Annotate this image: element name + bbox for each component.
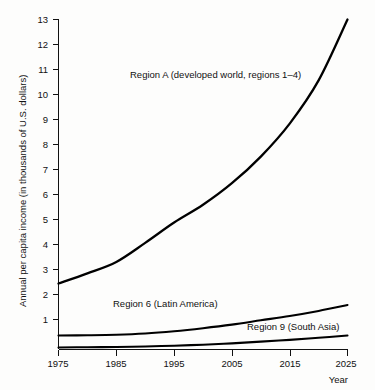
y-tick-label-7: 7 [43, 164, 48, 175]
line-chart: 13 12 11 10 9 8 7 6 5 4 3 2 1 1975 1985 … [0, 0, 375, 390]
x-tick-label-2015: 2015 [279, 358, 300, 369]
y-tick-label-11: 11 [38, 64, 48, 75]
series-label-region-9: Region 9 (South Asia) [247, 321, 339, 332]
y-axis-ticks [53, 20, 59, 320]
series-label-region-a: Region A (developed world, regions 1–4) [130, 69, 301, 80]
y-tick-label-2: 2 [43, 289, 48, 300]
y-tick-label-1: 1 [43, 314, 48, 325]
x-axis-ticks [59, 350, 348, 357]
y-tick-label-8: 8 [43, 139, 48, 150]
x-tick-label-1985: 1985 [105, 358, 126, 369]
y-tick-label-5: 5 [43, 214, 48, 225]
y-tick-label-13: 13 [37, 14, 48, 25]
y-axis-title: Annual per capita income (in thousands o… [17, 75, 28, 307]
series-label-region-6: Region 6 (Latin America) [113, 298, 218, 309]
x-tick-label-2005: 2005 [221, 358, 242, 369]
x-axis-title: Year [329, 374, 348, 385]
x-tick-label-2025: 2025 [335, 358, 356, 369]
y-tick-label-4: 4 [43, 239, 48, 250]
y-tick-label-6: 6 [43, 189, 48, 200]
x-tick-label-1995: 1995 [163, 358, 184, 369]
series-line-region-9 [59, 336, 348, 348]
series-line-region-a [59, 20, 348, 284]
y-tick-label-12: 12 [37, 39, 48, 50]
chart-container: 13 12 11 10 9 8 7 6 5 4 3 2 1 1975 1985 … [0, 0, 375, 390]
x-tick-label-1975: 1975 [47, 358, 68, 369]
y-tick-label-10: 10 [37, 89, 48, 100]
y-tick-label-9: 9 [43, 114, 48, 125]
y-tick-label-3: 3 [43, 264, 48, 275]
